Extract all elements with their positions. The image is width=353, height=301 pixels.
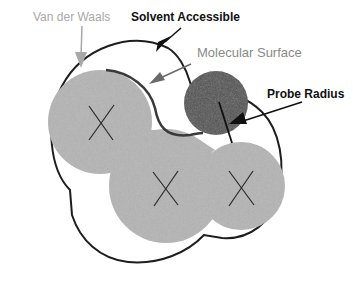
van-der-waals-atoms xyxy=(48,70,285,243)
molecular-surface-diagram: Van der Waals Solvent Accessible Molecul… xyxy=(0,0,353,301)
molecular-surface-arrow xyxy=(149,64,191,84)
van-der-waals-label: Van der Waals xyxy=(33,11,110,23)
solvent-accessible-label: Solvent Accessible xyxy=(131,11,240,23)
atom-3 xyxy=(197,142,285,230)
van-der-waals-arrow xyxy=(75,26,87,68)
probe-radius-label: Probe Radius xyxy=(267,88,344,100)
probe-sphere xyxy=(184,71,248,135)
molecular-surface-label: Molecular Surface xyxy=(197,46,302,59)
